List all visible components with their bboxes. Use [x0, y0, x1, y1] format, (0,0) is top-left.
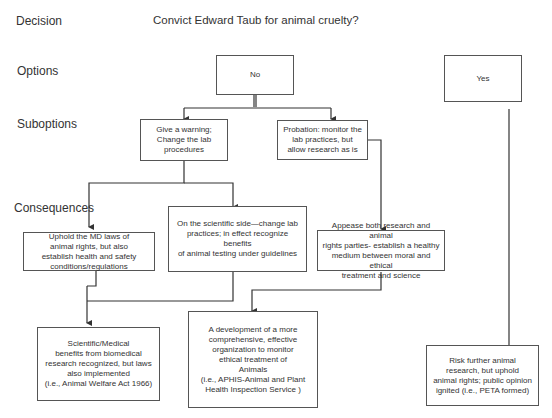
row-label-decision: Decision: [16, 14, 62, 28]
outcome-development-organization: A development of a more comprehensive, e…: [188, 311, 318, 408]
row-label-consequences: Consequences: [14, 201, 94, 215]
decision-question: Convict Edward Taub for animal cruelty?: [153, 14, 359, 26]
suboption-probation: Probation: monitor the lab practices, bu…: [277, 120, 368, 160]
option-no: No: [216, 55, 294, 95]
suboption-give-warning: Give a warning; Change the lab procedure…: [140, 119, 228, 161]
outcome-risk-further-research: Risk further animal research, but uphold…: [426, 345, 539, 406]
consequence-uphold-md-laws: Uphold the MD laws of animal rights, but…: [23, 232, 155, 271]
consequence-appease-both: Appease both research and animal rights …: [317, 230, 445, 271]
outcome-scientific-medical: Scientific/Medical benefits from biomedi…: [37, 327, 160, 401]
consequence-scientific-side: On the scientific side—change lab practi…: [168, 206, 307, 272]
row-label-options: Options: [17, 64, 58, 78]
option-yes: Yes: [444, 55, 522, 102]
row-label-suboptions: Suboptions: [17, 117, 77, 131]
